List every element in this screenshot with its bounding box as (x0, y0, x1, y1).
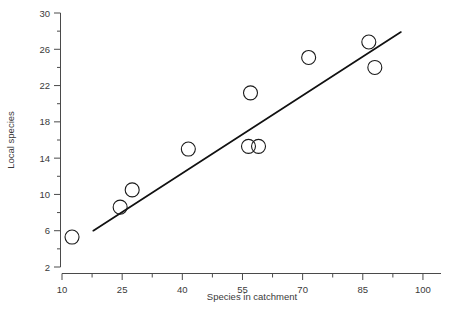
x-axis-title: Species in catchment (207, 291, 298, 302)
y-tick-label: 14 (39, 153, 50, 164)
scatter-plot-figure: 26101418222630 102540557085100 Species i… (0, 0, 458, 334)
data-point-marker (113, 200, 127, 214)
data-point-markers (65, 35, 382, 244)
y-tick-label: 2 (45, 262, 50, 273)
x-tick-label: 100 (415, 284, 431, 295)
y-tick-label: 30 (39, 8, 50, 19)
y-tick-label: 18 (39, 116, 50, 127)
data-point-marker (368, 60, 382, 74)
y-axis-title: Local species (5, 111, 16, 169)
data-point-marker (362, 35, 376, 49)
plot-canvas: 26101418222630 102540557085100 Species i… (0, 0, 458, 334)
y-tick-label: 26 (39, 44, 50, 55)
x-axis-major-ticks (62, 274, 423, 281)
x-tick-label: 10 (57, 284, 68, 295)
x-tick-label: 25 (117, 284, 128, 295)
data-point-marker (302, 50, 316, 64)
data-point-marker (65, 230, 79, 244)
y-tick-label: 10 (39, 189, 50, 200)
y-tick-label: 6 (45, 225, 50, 236)
x-tick-label: 40 (177, 284, 188, 295)
data-point-marker (252, 139, 266, 153)
regression-line (93, 32, 401, 231)
data-point-marker (125, 183, 139, 197)
data-point-marker (243, 86, 257, 100)
y-axis-tick-labels: 26101418222630 (39, 8, 50, 273)
y-tick-label: 22 (39, 80, 50, 91)
x-tick-label: 70 (297, 284, 308, 295)
x-tick-label: 85 (358, 284, 369, 295)
data-point-marker (181, 142, 195, 156)
y-axis-minor-ticks (57, 31, 61, 249)
